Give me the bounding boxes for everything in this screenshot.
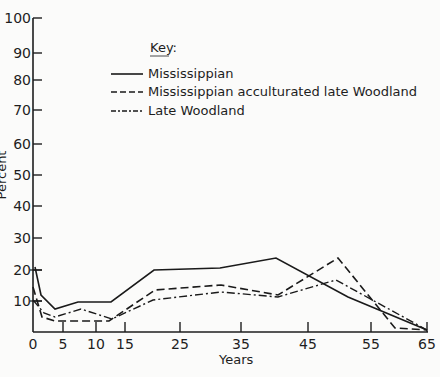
y-tick-label: 60 <box>13 136 31 152</box>
legend-title: Key: <box>150 40 177 55</box>
y-axis-label: Percent <box>0 151 9 200</box>
legend: Key: Mississippian Mississippian accultu… <box>111 40 417 118</box>
y-tick-label: 90 <box>13 45 31 61</box>
x-axis-label: Years <box>218 352 254 367</box>
x-tick-label: 0 <box>29 336 38 352</box>
x-tick-label: 15 <box>116 336 134 352</box>
x-tick-label: 25 <box>171 336 189 352</box>
x-tick-label: 35 <box>232 336 250 352</box>
y-tick-label: 10 <box>13 293 31 309</box>
y-tick-label: 80 <box>13 72 31 88</box>
y-tick-label: 40 <box>13 198 31 214</box>
legend-label-acculturated: Mississippian acculturated late Woodland <box>148 84 417 99</box>
series-acculturated-line <box>33 258 427 330</box>
legend-label-late-woodland: Late Woodland <box>148 103 245 118</box>
legend-label-mississippian: Mississippian <box>148 66 233 81</box>
series-mississippian-line <box>35 258 427 330</box>
x-tick-label: 5 <box>59 336 68 352</box>
y-tick-label: 30 <box>13 230 31 246</box>
y-tick-label: 70 <box>13 102 31 118</box>
y-tick-label: 100 <box>4 10 31 26</box>
x-tick-label: 55 <box>362 336 380 352</box>
y-tick-label: 20 <box>13 262 31 278</box>
x-tick-label: 45 <box>299 336 317 352</box>
x-tick-label: 10 <box>87 336 105 352</box>
line-chart: 102030405060708090100 0510152535455565 P… <box>0 0 440 377</box>
y-tick-label: 50 <box>13 167 31 183</box>
x-axis-ticks: 0510152535455565 <box>29 322 436 352</box>
x-tick-label: 65 <box>418 336 436 352</box>
y-axis-ticks: 102030405060708090100 <box>4 10 42 309</box>
